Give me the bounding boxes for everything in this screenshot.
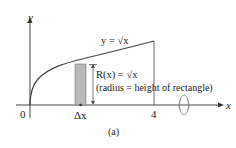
x-axis-arrow-icon (218, 103, 224, 108)
delta-x-marker (79, 104, 82, 107)
radius-label: R(x) = √x (96, 70, 137, 81)
slice-rectangle (75, 64, 86, 105)
curve-label: y = √x (101, 36, 128, 47)
figure-caption: (a) (108, 127, 119, 137)
diagram-figure: y x 0 4 Δx y = √x R(x) = √x (radius = he… (0, 0, 236, 148)
x-axis-label: x (226, 100, 231, 111)
y-axis-label: y (28, 12, 33, 23)
origin-label: 0 (20, 109, 26, 120)
radius-arrowhead-top-icon (91, 65, 95, 69)
x-end-label: 4 (151, 109, 157, 120)
delta-x-label: Δx (74, 110, 87, 121)
radius-arrowhead-bottom-icon (91, 101, 95, 105)
radius-note: (radius = height of rectangle) (96, 83, 213, 93)
